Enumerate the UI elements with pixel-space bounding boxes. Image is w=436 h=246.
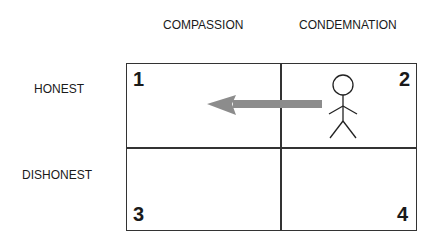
stick-figure-icon [329, 75, 357, 138]
arrow-icon [207, 95, 322, 115]
diagram-overlay [0, 0, 436, 246]
